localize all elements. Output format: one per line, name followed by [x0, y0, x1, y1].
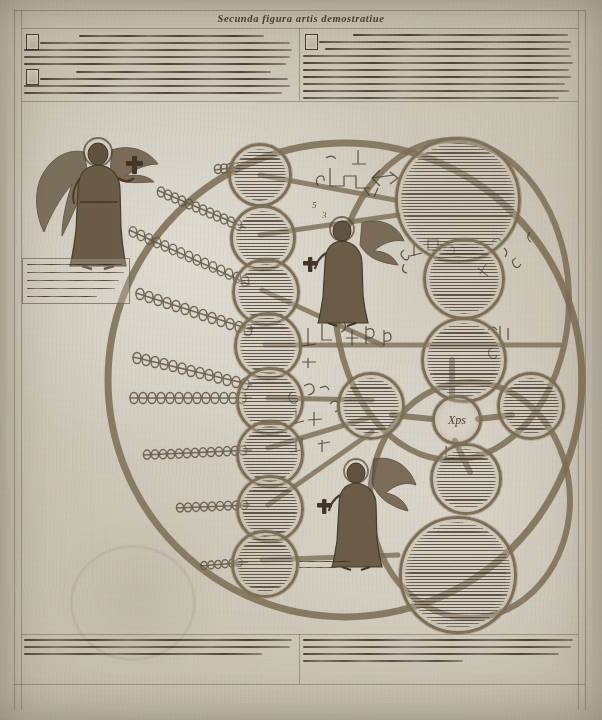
- cross-icon: [303, 257, 318, 272]
- caption-line: [27, 288, 115, 289]
- header-right-column: [303, 31, 575, 99]
- header-left-column: [24, 31, 296, 99]
- angel-left-margin: [26, 120, 166, 270]
- node-left-7-text: [242, 481, 298, 537]
- hub-glyph: Xps: [435, 398, 479, 442]
- caption-line: [27, 264, 122, 265]
- node-right-2-text: [429, 244, 499, 314]
- frame-rule-right-outer: [585, 10, 586, 710]
- angel-head: [347, 463, 365, 483]
- footer-left-text: [24, 637, 296, 663]
- angel-wing: [372, 458, 416, 511]
- node-hub-center[interactable]: Xps: [432, 395, 482, 445]
- caption-line: [299, 561, 351, 562]
- node-left-8[interactable]: [231, 530, 299, 598]
- node-right-5[interactable]: [430, 443, 502, 515]
- frame-rule-header-below: [21, 101, 578, 102]
- frame-rule-left-outer: [14, 10, 15, 710]
- node-left-8-text: [237, 536, 293, 592]
- angel-wing: [360, 221, 404, 265]
- angel-lower-center: [312, 445, 422, 570]
- manuscript-page: Secunda figura artis demostratiue: [0, 0, 602, 720]
- node-left-4-text: [240, 318, 296, 374]
- node-left-6-text: [242, 426, 298, 482]
- cross-icon: [317, 499, 332, 514]
- node-right-3-text: [427, 323, 501, 397]
- caption-line: [27, 272, 124, 273]
- caption-center-bottom: [299, 561, 357, 573]
- caption-line: [299, 567, 337, 568]
- footer-right-text: [303, 637, 575, 663]
- node-junction-left[interactable]: [337, 372, 405, 440]
- frame-rule-column-split-bottom: [299, 634, 300, 684]
- header-left-text: [24, 31, 296, 99]
- node-right-2[interactable]: [423, 238, 505, 320]
- angel-head: [88, 143, 108, 165]
- header-right-text: [303, 31, 575, 99]
- footer-right-column: [303, 637, 575, 663]
- angel-head: [333, 221, 351, 241]
- frame-rule-bottom: [14, 684, 585, 685]
- page-title: Secunda figura artis demostratiue: [0, 13, 602, 24]
- frame-rule-left-inner: [21, 10, 22, 710]
- frame-rule-column-split-top: [299, 28, 300, 101]
- frame-rule-right-inner: [578, 10, 579, 710]
- node-right-3[interactable]: [421, 317, 507, 403]
- node-left-2-text: [236, 211, 290, 265]
- caption-line: [27, 280, 119, 281]
- node-junction-left-text: [343, 378, 399, 434]
- node-left-1-text: [234, 149, 286, 201]
- node-right-4-text: [503, 378, 559, 434]
- footer-left-column: [24, 637, 296, 663]
- angel-upper-center: [296, 205, 406, 325]
- node-right-5-text: [436, 449, 496, 509]
- node-right-4[interactable]: [497, 372, 565, 440]
- caption-left-angel: [22, 258, 130, 304]
- frame-rule-top: [14, 10, 585, 11]
- caption-line: [27, 296, 97, 297]
- node-left-1[interactable]: [228, 143, 292, 207]
